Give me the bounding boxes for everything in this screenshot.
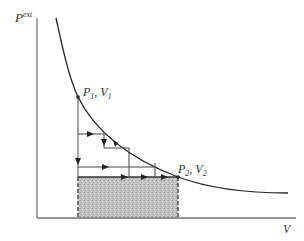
arrow-curve-icon [113,140,118,147]
arrow-right-icon [102,164,109,170]
x-axis-label: V [283,222,290,237]
state1-point [76,95,80,99]
y-axis-symbol: P [15,10,23,25]
state2-label: P2, V2 [178,162,207,178]
v2-subscript: 2 [203,169,207,178]
x-axis-symbol: V [283,222,290,236]
arrow-down-icon [75,158,81,165]
pv-diagram [0,0,304,241]
state1-label: P1, V1 [83,85,112,101]
work-shaded-region [78,177,178,218]
v2-symbol: V [195,162,202,176]
arrow-right-icon [87,131,94,137]
v1-symbol: V [100,85,107,99]
y-axis-label: Pext [15,10,32,26]
arrow-down-icon [101,139,107,146]
y-axis-superscript: ext [23,10,32,19]
v1-subscript: 1 [108,92,112,101]
